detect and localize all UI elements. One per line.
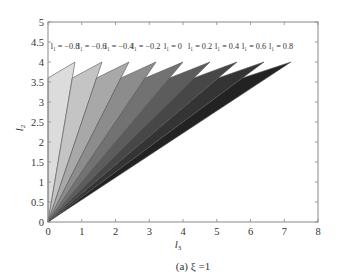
x-tick-label: 1 [79,226,84,237]
wedge-annotation-label: l₁ = 0 [164,42,182,51]
wedge-annotation-label: l₁ = 0.4 [215,42,239,51]
wedge-annotation-label: l₁ = 0.2 [188,42,212,51]
wedge-chart: 012345678 00.511.522.533.544.55 l₁ = −0.… [0,0,339,280]
wedge-series-group [48,62,291,222]
wedge-annotation-label: l₁ = −0.6 [78,42,107,51]
x-tick-label: 3 [147,226,152,237]
x-tick-label: 2 [113,226,118,237]
wedge-annotation-label: l₁ = −0.2 [132,42,161,51]
y-tick-label: 3.5 [31,77,44,88]
y-tick-label: 2 [39,137,44,148]
x-tick-label: 8 [315,226,320,237]
wedge-annotation-label: l₁ = 0.6 [242,42,266,51]
wedge-annotation-label: l₁ = −0.4 [105,42,134,51]
wedge-annotation-label: l₁ = −0.8 [51,42,80,51]
x-tick-label: 6 [248,226,253,237]
figure-caption: (a) ξ =1 [176,260,210,273]
x-tick-label: 4 [180,226,186,237]
x-axis-label: l3 [175,238,182,252]
y-tick-label: 1.5 [31,157,44,168]
x-tick-label: 5 [214,226,219,237]
y-tick-label: 0.5 [31,197,44,208]
y-tick-label: 1 [39,177,44,188]
y-tick-label: 0 [39,217,44,228]
y-tick-label: 2.5 [31,117,44,128]
x-tick-label: 0 [45,226,50,237]
x-tick-label: 7 [282,226,287,237]
y-tick-label: 5 [39,17,44,28]
y-axis-label: l2 [13,124,27,131]
wedge-annotation-label: l₁ = 0.8 [269,42,293,51]
y-tick-label: 3 [39,97,44,108]
y-tick-label: 4.5 [31,37,44,48]
wedge-annotations: l₁ = −0.8l₁ = −0.6l₁ = −0.4l₁ = −0.2l₁ =… [51,42,293,51]
y-tick-label: 4 [39,57,45,68]
